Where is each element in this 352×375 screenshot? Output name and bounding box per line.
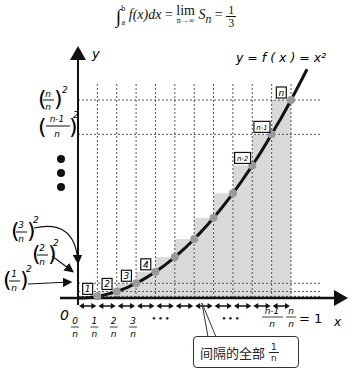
- x-tick-num: 0: [72, 316, 78, 326]
- paren-left: (: [38, 86, 47, 111]
- curve-label: y = f ( x ) = x²: [235, 50, 326, 65]
- x-tick-equals-one: = 1: [299, 311, 322, 326]
- x-axis-label: x: [333, 315, 342, 329]
- x-tick-n-num: n: [288, 306, 294, 316]
- arrow-head-left: [195, 303, 200, 309]
- exponent: 2: [62, 85, 68, 95]
- curve-point: [210, 214, 218, 222]
- arrow-head-left: [253, 303, 258, 309]
- x-tick-den: n: [72, 329, 78, 339]
- exponent: 2: [73, 110, 79, 120]
- curve-point: [190, 235, 198, 243]
- x-tick-end-labels: n-1 n n n = 1: [262, 306, 322, 329]
- curve-point: [113, 287, 121, 295]
- interval-arrows: [79, 303, 290, 309]
- arrow-head-right: [188, 303, 193, 309]
- x-tick-num: 2: [111, 316, 117, 326]
- arrow-head-right: [208, 303, 213, 309]
- arrow-head-left: [176, 303, 181, 309]
- x-tick-n-minus-1-num: n-1: [265, 306, 280, 316]
- arrow-head-right: [169, 303, 174, 309]
- curve-point: [132, 279, 140, 287]
- rect-index-label: n-2: [237, 155, 249, 163]
- arrow-head-right: [130, 303, 135, 309]
- ellipsis-dot: [57, 155, 65, 163]
- y-label-third: 3 n ( ) 2: [11, 215, 39, 244]
- curve-point: [287, 96, 295, 104]
- x-tick-num: 1: [91, 316, 97, 326]
- arrow-head-left: [215, 303, 220, 309]
- arrow-head-right: [246, 303, 251, 309]
- y-axis-label: y: [91, 46, 100, 61]
- paren-left: (: [38, 114, 47, 139]
- arrow-head-left: [118, 303, 123, 309]
- exponent: 2: [26, 264, 32, 274]
- callout-fraction: 1n: [269, 342, 279, 363]
- y-label-second: n-1 n ( ) 2: [38, 110, 79, 139]
- riemann-rect: [214, 193, 233, 298]
- riemann-rect: [233, 165, 252, 298]
- y-label-fifth-num: 1: [11, 269, 17, 279]
- callout-frac-den: n: [269, 353, 279, 363]
- arrow-head-right: [111, 303, 116, 309]
- rect-index-label: 3: [124, 271, 130, 281]
- x-tick-ellipsis-2: • • •: [222, 312, 239, 324]
- callout-frac-num: 1: [269, 342, 279, 353]
- curve-point: [229, 189, 237, 197]
- x-axis-arrowhead: [334, 290, 348, 306]
- arrow-head-right: [149, 303, 154, 309]
- rect-index-label: 2: [104, 279, 110, 289]
- x-tick-den: n: [92, 329, 98, 339]
- x-tick-den: n: [111, 329, 117, 339]
- arrow-head-left: [156, 303, 161, 309]
- y-label-second-den: n: [54, 129, 60, 139]
- rect-index-label: 4: [143, 260, 149, 270]
- arrow-head-left: [234, 303, 239, 309]
- paren-left: (: [32, 241, 41, 266]
- y-label-second-num: n-1: [50, 114, 65, 124]
- y-axis-arrowhead: [70, 46, 86, 60]
- rect-index-label: 1: [85, 284, 91, 294]
- x-tick-ellipsis: • • •: [152, 312, 169, 324]
- arrow-head-left: [98, 303, 103, 309]
- exponent: 2: [53, 238, 59, 248]
- origin-label: 0: [60, 307, 69, 323]
- paren-left: (: [3, 267, 12, 292]
- pointer-arrow-fifth: [28, 282, 70, 284]
- curve-point: [151, 268, 159, 276]
- curve-point: [93, 292, 101, 300]
- arrow-head-right: [227, 303, 232, 309]
- arrow-head-left: [137, 303, 142, 309]
- interval-callout: 间隔的全部 1n: [193, 336, 299, 368]
- rect-index-label: n-1: [256, 124, 267, 132]
- exponent: 2: [33, 215, 39, 225]
- y-label-top: n n ( ) 2: [38, 85, 68, 112]
- ellipsis-dot: [57, 183, 65, 191]
- y-label-fifth-den: n: [11, 283, 17, 293]
- x-tick-num: 3: [130, 316, 136, 326]
- y-label-fifth: 1 n ( ) 2: [3, 264, 32, 293]
- ellipsis-dot: [57, 169, 65, 177]
- arrow-head-left: [79, 303, 84, 309]
- arrow-head-right: [91, 303, 96, 309]
- x-tick-labels: 0n1n2n3n: [71, 316, 137, 339]
- x-tick-den: n: [130, 329, 136, 339]
- curve-point: [171, 253, 179, 261]
- riemann-sum-diagram: y x 0 1234n-2n-1n y = f ( x ) = x² n n (…: [0, 0, 352, 375]
- callout-text: 间隔的全部: [200, 343, 265, 362]
- y-label-fourth: 2 n ( ) 2: [32, 238, 59, 267]
- paren-left: (: [11, 218, 20, 243]
- rect-index-label: n: [278, 88, 284, 98]
- x-tick-n-den: n: [288, 319, 294, 329]
- x-tick-n-minus-1-den: n: [269, 319, 275, 329]
